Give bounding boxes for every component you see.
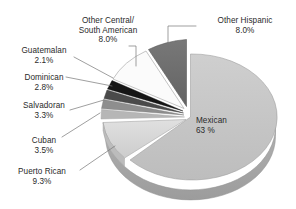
slice-label-line2: South American — [60, 26, 156, 36]
slice-value: 63 % — [196, 126, 256, 136]
slice-name: Salvadoran — [6, 101, 82, 111]
slice-label-salvadoran: Salvadoran 3.3% — [6, 101, 82, 120]
slice-value: 2.8% — [6, 83, 82, 93]
slice-label-mexican: Mexican 63 % — [196, 116, 256, 135]
slice-value: 3.3% — [6, 111, 82, 121]
slice-name: Other Hispanic — [200, 16, 290, 26]
slice-label-other-hispanic: Other Hispanic 8.0% — [200, 16, 290, 35]
slice-name: Puerto Rican — [2, 167, 82, 177]
slice-label-line1: Other Central/ — [60, 16, 156, 26]
slice-label-dominican: Dominican 2.8% — [6, 73, 82, 92]
leader-puerto-rican — [80, 146, 115, 170]
slice-value: 8.0% — [60, 35, 156, 45]
slice-value: 8.0% — [200, 26, 290, 36]
slice-label-guatemalan: Guatemalan 2.1% — [6, 46, 82, 65]
slice-name: Dominican — [6, 73, 82, 83]
slice-value: 3.5% — [6, 146, 82, 156]
slice-label-puerto-rican: Puerto Rican 9.3% — [2, 167, 82, 186]
slice-label-other-central-south-american: Other Central/ South American 8.0% — [60, 16, 156, 45]
pie-chart: Other Central/ South American 8.0% Other… — [0, 0, 296, 209]
slice-value: 9.3% — [2, 177, 82, 187]
slice-value: 2.1% — [6, 56, 82, 66]
slice-label-cuban: Cuban 3.5% — [6, 136, 82, 155]
slice-name: Guatemalan — [6, 46, 82, 56]
slice-name: Cuban — [6, 136, 82, 146]
slice-name: Mexican — [196, 116, 256, 126]
